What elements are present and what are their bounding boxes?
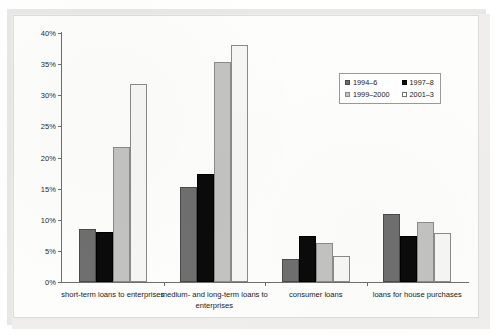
x-axis-tick-mark	[265, 282, 266, 286]
bar[interactable]	[96, 232, 113, 282]
legend-item-label: 1997–8	[410, 78, 434, 87]
plot-area: 0%5%10%15%20%25%30%35%40%short-term loan…	[62, 33, 468, 282]
bar-group-bars	[62, 33, 164, 282]
bar[interactable]	[400, 236, 417, 282]
bar[interactable]	[214, 62, 231, 282]
legend-item[interactable]: 1997–8	[402, 78, 434, 87]
bar[interactable]	[231, 45, 248, 282]
bar[interactable]	[180, 187, 197, 282]
bar[interactable]	[434, 233, 451, 282]
legend-item[interactable]: 2001–3	[402, 90, 434, 99]
legend-item-label: 2001–3	[410, 90, 434, 99]
x-axis-category-label: consumer loans	[257, 290, 375, 301]
bar[interactable]	[417, 222, 434, 282]
x-axis-category-label: short-term loans to enterprises	[54, 290, 172, 301]
x-axis-category-label: medium- and long-term loans to enterpris…	[155, 290, 273, 311]
bar-group: loans for house purchases	[367, 33, 469, 282]
bar[interactable]	[299, 236, 316, 282]
bar[interactable]	[130, 84, 147, 282]
bar[interactable]	[316, 243, 333, 282]
bar[interactable]	[282, 259, 299, 282]
x-axis-category-label: loans for house purchases	[358, 290, 476, 301]
legend-item[interactable]: 1999–2000	[345, 90, 390, 99]
bar[interactable]	[383, 214, 400, 282]
x-axis-tick-mark	[164, 282, 165, 286]
chart-legend: 1994–61997–81999–20002001–3	[339, 73, 441, 104]
bar-group-bars	[367, 33, 469, 282]
legend-swatch-icon	[345, 80, 350, 85]
x-axis-tick-mark	[367, 282, 368, 286]
bar-group-bars	[164, 33, 266, 282]
legend-item-label: 1994–6	[353, 78, 377, 87]
bar[interactable]	[79, 229, 96, 282]
bar[interactable]	[113, 147, 130, 282]
y-axis-tick-mark	[58, 282, 62, 283]
bar[interactable]	[333, 256, 350, 282]
legend-swatch-icon	[402, 80, 407, 85]
bar-group-bars	[265, 33, 367, 282]
bar-group: medium- and long-term loans to enterpris…	[164, 33, 266, 282]
legend-item-label: 1999–2000	[353, 90, 390, 99]
bar-group: consumer loans	[265, 33, 367, 282]
chart-figure: 0%5%10%15%20%25%30%35%40%short-term loan…	[0, 0, 496, 336]
bar-group: short-term loans to enterprises	[62, 33, 164, 282]
bar[interactable]	[197, 174, 214, 282]
legend-swatch-icon	[402, 92, 407, 97]
legend-item[interactable]: 1994–6	[345, 78, 390, 87]
legend-swatch-icon	[345, 92, 350, 97]
